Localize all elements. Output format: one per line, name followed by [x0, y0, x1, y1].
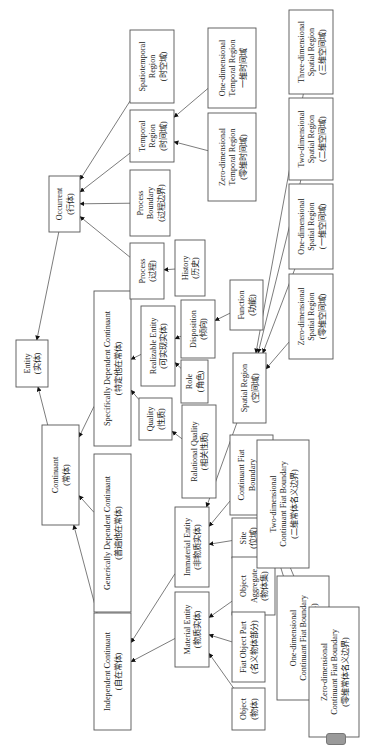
node-label: One-dimensionalSpatial Region(一维空间域) — [297, 198, 327, 255]
node-box — [94, 454, 131, 612]
edge-role-to-realizable-entity — [175, 363, 181, 369]
node-box — [94, 613, 131, 730]
node-label: Quality(性质) — [146, 406, 166, 431]
edge-quality-to-specifically-dependent-continuant — [131, 390, 139, 399]
nodes-layer: Entity(实体)Continuant(常体)Occurrent(行体)Ind… — [16, 10, 359, 737]
node-object: Object(物体) — [232, 688, 265, 730]
node-zero-dimensional-continuant-fiat-boundary: Zero-dimensionalContinuant Fiat Boundary… — [309, 607, 359, 737]
node-spatiotemporal-region: SpatiotemporalRegion(时空域) — [130, 30, 174, 103]
node-occurrent: Occurrent(行体) — [49, 176, 80, 232]
node-label: Zero-dimensionalTemporal Region(零维时间域) — [218, 127, 248, 186]
node-box — [49, 176, 80, 232]
edge-zero-dimensional-temporal-region-to-temporal-region — [174, 142, 208, 151]
node-continuant: Continuant(常体) — [42, 425, 79, 525]
node-label: Fiat Object Part(名义物体部分) — [239, 620, 259, 674]
edge-object-to-material-entity — [209, 653, 234, 688]
edge-temporal-region-to-occurrent — [80, 153, 130, 192]
node-specifically-dependent-continuant: Specifically Dependent Continuant(特定他在常体… — [94, 291, 131, 446]
edge-function-to-disposition — [215, 313, 230, 320]
node-label: Object(物体) — [239, 697, 259, 720]
node-disposition: Disposition(倾向) — [181, 300, 215, 358]
node-zero-dimensional-spatial-region: Zero-dimensionalSpatial Region(零维空间域) — [289, 274, 333, 359]
node-box — [230, 280, 263, 330]
node-entity: Entity(实体) — [16, 340, 48, 387]
node-box — [139, 398, 172, 440]
edge-specifically-dependent-continuant-to-continuant — [79, 406, 94, 437]
node-label: Material Entity(物质实体) — [183, 604, 203, 655]
node-fiat-object-part: Fiat Object Part(名义物体部分) — [232, 612, 265, 682]
node-box — [232, 612, 265, 682]
node-box — [130, 243, 164, 299]
edge-spatiotemporal-region-to-occurrent — [80, 101, 130, 180]
node-two-dimensional-spatial-region: Two-dimensionalSpatial Region(二维空间域) — [289, 98, 333, 180]
edge-independent-continuant-to-continuant — [74, 525, 97, 613]
node-role: Role(角色) — [181, 360, 208, 403]
node-box — [42, 425, 79, 525]
node-box — [232, 688, 265, 730]
node-label: Realizable Entity(可实现实体) — [149, 317, 169, 375]
edge-one-dimensional-temporal-region-to-temporal-region — [174, 88, 208, 117]
edge-continuant-fiat-boundary-to-immaterial-entity — [209, 501, 230, 526]
node-label: History(历史) — [181, 255, 201, 280]
node-spatial-region: Spatial Region(空间域) — [233, 353, 266, 423]
node-label: Process(过程) — [138, 258, 158, 283]
node-immaterial-entity: Immaterial Entity(非物质实体) — [175, 507, 209, 587]
edge-process-to-occurrent — [80, 217, 130, 258]
node-one-dimensional-spatial-region: One-dimensionalSpatial Region(一维空间域) — [289, 184, 333, 269]
node-box — [175, 507, 209, 587]
edge-immaterial-entity-to-independent-continuant — [131, 574, 175, 643]
node-box — [141, 306, 175, 386]
edge-generically-dependent-continuant-to-continuant — [79, 496, 94, 513]
node-independent-continuant: Independent Continuant(自在常体) — [94, 613, 131, 730]
node-zero-dimensional-temporal-region: Zero-dimensionalTemporal Region(零维时间域) — [208, 113, 256, 201]
node-label: Entity(实体) — [23, 353, 43, 375]
node-two-dimensional-continuant-fiat-boundary: Two-dimensionalContinuant Fiat Boundary(… — [257, 440, 309, 568]
edge-fiat-object-part-to-material-entity — [209, 635, 232, 642]
edge-continuant-to-entity — [38, 387, 48, 425]
node-box — [94, 291, 131, 446]
node-label: Immaterial Entity(非物质实体) — [183, 517, 203, 576]
node-process-boundary: ProcessBoundary(过程边界) — [130, 170, 170, 236]
edge-disposition-to-realizable-entity — [175, 336, 181, 339]
node-generically-dependent-continuant: Generically Dependent Continuant(普遍他在常体) — [94, 454, 131, 612]
node-label: Three-dimensionalSpatial Region(三维空间域) — [297, 20, 327, 83]
edge-occurrent-to-entity — [37, 232, 59, 340]
node-history: History(历史) — [175, 240, 205, 296]
node-temporal-region: TemporalRegion(时间域) — [130, 110, 174, 162]
node-function: Function(功能) — [230, 280, 263, 330]
node-box — [175, 592, 209, 667]
edge-material-entity-to-independent-continuant — [131, 638, 175, 661]
edge-object-aggregate-to-material-entity — [209, 601, 232, 617]
node-process: Process(过程) — [130, 243, 164, 299]
node-realizable-entity: Realizable Entity(可实现实体) — [141, 306, 175, 386]
node-label: Two-dimensionalSpatial Region(二维空间域) — [297, 110, 327, 168]
node-box — [233, 353, 266, 423]
edge-history-to-process — [164, 269, 175, 270]
node-relational-quality: Ralational Quality(相关性质) — [182, 405, 216, 498]
node-box — [16, 340, 48, 387]
ontology-diagram: Entity(实体)Continuant(常体)Occurrent(行体)Ind… — [0, 0, 365, 749]
node-quality: Quality(性质) — [139, 398, 172, 440]
edge-realizable-entity-to-specifically-dependent-continuant — [131, 354, 141, 359]
node-box — [175, 240, 205, 296]
node-box — [182, 405, 216, 498]
node-material-entity: Material Entity(物质实体) — [175, 592, 209, 667]
node-label: Zero-dimensionalSpatial Region(零维空间域) — [297, 287, 327, 346]
corner-badge-icon — [326, 733, 346, 745]
edge-relational-quality-to-quality — [172, 431, 182, 438]
edge-site-to-immaterial-entity — [209, 541, 232, 545]
edge-process-boundary-to-occurrent — [80, 203, 130, 204]
node-box — [181, 300, 215, 358]
node-label: Function(功能) — [237, 290, 257, 319]
node-label: TemporalRegion(时间域) — [138, 120, 168, 152]
node-three-dimensional-spatial-region: Three-dimensionalSpatial Region(三维空间域) — [289, 10, 333, 94]
edge-zero-dimensional-spatial-region-to-spatial-region — [266, 342, 289, 369]
node-one-dimensional-temporal-region: One-dimensionalTemporal Region一维时间域 — [208, 28, 256, 108]
